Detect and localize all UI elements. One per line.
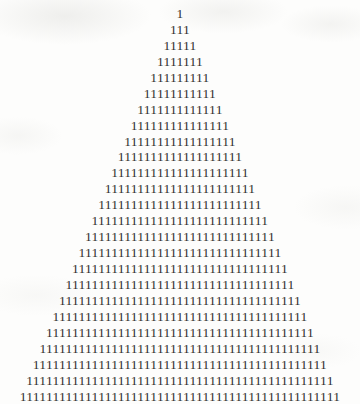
pyramid-row: 1111111111111111111111111111111111111 (0, 293, 360, 309)
pyramid-row: 1111111111111111111111111111111111111111… (0, 341, 360, 357)
pyramid-row: 11111 (0, 38, 360, 54)
pyramid-row: 1111111111111 (0, 102, 360, 118)
pyramid-row: 11111111111111111 (0, 134, 360, 150)
pyramid-row: 1111111111111111111111111111111111111111… (0, 357, 360, 373)
pyramid-row: 111111111111111111111111111111111111111 (0, 309, 360, 325)
pyramid-row: 1111111111111111111111111 (0, 197, 360, 213)
pyramid-row: 1111111111111111111111111111111 (0, 245, 360, 261)
pyramid-row: 111111111111111111111111111111111 (0, 261, 360, 277)
pyramid-row: 1111111111111111111111111111111111111111… (0, 373, 360, 389)
pyramid-row: 1111111111111111111111111111111111111111… (0, 325, 360, 341)
pyramid-row: 1111111111111111111111111111111111111111… (0, 389, 360, 404)
pyramid-row: 111111111111111 (0, 118, 360, 134)
pyramid-row: 11111111111111111111111111111 (0, 229, 360, 245)
pyramid-row: 111 (0, 22, 360, 38)
pyramid-row: 1111111 (0, 54, 360, 70)
pyramid-row: 111111111111111111111111111 (0, 213, 360, 229)
pyramid-row: 11111111111111111111111 (0, 181, 360, 197)
pyramid-row: 111111111111111111111 (0, 165, 360, 181)
pyramid-row: 11111111111 (0, 86, 360, 102)
digit-pyramid-figure: 1 111 11111 1111111 111111111 1111111111… (0, 0, 360, 404)
pyramid-row: 1 (0, 6, 360, 22)
pyramid-row: 111111111 (0, 70, 360, 86)
pyramid-row: 1111111111111111111 (0, 149, 360, 165)
pyramid-row: 11111111111111111111111111111111111 (0, 277, 360, 293)
